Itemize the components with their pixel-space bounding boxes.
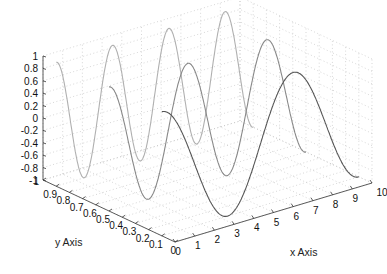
y-tick-label: 0.9: [43, 189, 57, 200]
z-tick-label: -0.6: [21, 150, 39, 161]
y-tick-label: 0.5: [96, 214, 110, 225]
x-tick-label: 7: [313, 205, 319, 216]
z-tick-label: -1: [29, 175, 38, 186]
y-tick-label: 0.3: [122, 226, 136, 237]
x-axis-label: x Axis: [290, 246, 317, 258]
x-tick-label: 9: [353, 193, 359, 204]
x-tick-label: 2: [215, 234, 221, 245]
z-tick-label: 0.2: [24, 101, 38, 112]
y-tick-label: 0.6: [83, 208, 97, 219]
z-tick-label: 1: [32, 51, 38, 62]
x-tick-label: 5: [274, 217, 280, 228]
z-tick-label: -0.4: [21, 138, 39, 149]
x-tick-label: 6: [293, 211, 299, 222]
plot3d-chart: 01234567891000.10.20.30.40.50.60.70.80.9…: [0, 0, 387, 274]
z-tick-label: 0: [32, 113, 38, 124]
z-tick-label: -0.8: [21, 163, 39, 174]
y-tick-label: 0: [170, 245, 176, 256]
y-tick-label: 0.1: [149, 239, 163, 250]
x-tick-label: 3: [234, 228, 240, 239]
y-tick-label: 0.8: [56, 195, 70, 206]
x-tick-label: 4: [254, 222, 260, 233]
z-tick-label: 0.4: [24, 88, 38, 99]
curve-back: [56, 12, 253, 178]
x-tick-label: 8: [333, 199, 339, 210]
x-tick-label: 1: [195, 240, 201, 251]
z-tick-label: -0.2: [21, 125, 39, 136]
x-tick-label: 10: [376, 187, 387, 198]
x-tick-label: 0: [175, 246, 181, 257]
y-tick-label: 0.2: [136, 233, 150, 244]
y-axis-label: y Axis: [55, 236, 82, 248]
z-tick-label: 0.6: [24, 76, 38, 87]
y-tick-label: 0.4: [109, 220, 123, 231]
z-tick-label: 0.8: [24, 63, 38, 74]
curve-front: [162, 72, 359, 216]
y-tick-label: 0.7: [70, 202, 84, 213]
